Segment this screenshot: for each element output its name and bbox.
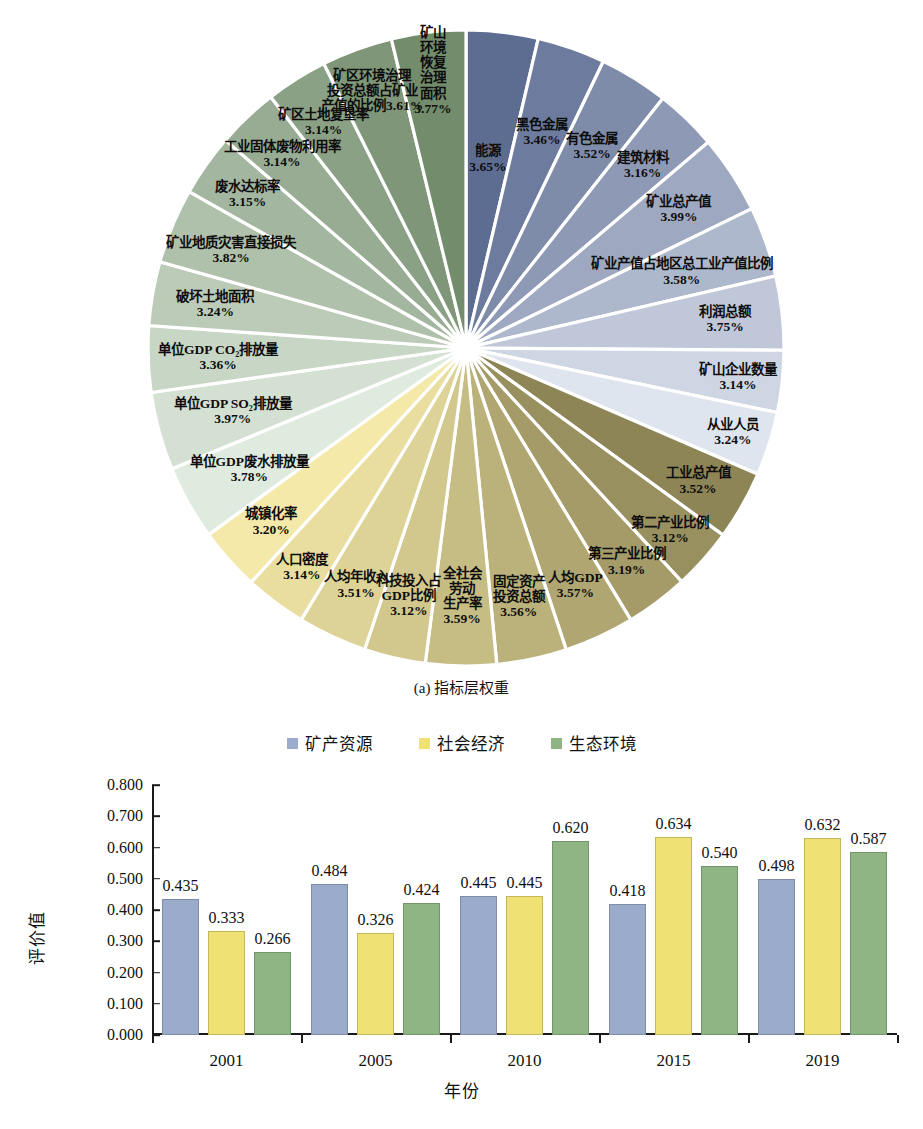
x-axis-tick-label: 2015 [657,1051,691,1071]
bar-value-label: 0.587 [851,830,887,848]
bar-value-label: 0.498 [759,857,795,875]
bar[interactable] [357,933,394,1035]
x-axis-tick-mark [450,1035,452,1043]
bar[interactable] [655,837,692,1035]
y-axis-tick-label: 0.000 [107,1026,152,1044]
bar-group: 0.4840.3260.4242005 [301,785,450,1035]
bar-value-label: 0.333 [209,909,245,927]
bar-group: 0.4450.4450.6202010 [450,785,599,1035]
bar[interactable] [804,838,841,1036]
bar-holder: 0.632 [804,785,841,1035]
bar-value-label: 0.445 [461,874,497,892]
bar-holder: 0.266 [254,785,291,1035]
bar-holder: 0.445 [506,785,543,1035]
bar[interactable] [506,896,543,1035]
pie-slice-group [148,30,784,666]
y-axis-tick-label: 0.100 [107,995,152,1013]
x-axis-tick-label: 2010 [508,1051,542,1071]
bar-plot-wrap: 评价值 0.8000.7000.6000.5000.4000.3000.2000… [0,700,923,1129]
bar-holder: 0.484 [311,785,348,1035]
x-axis-tick-mark [301,1035,303,1043]
bar-holder: 0.326 [357,785,394,1035]
x-axis-tick-mark [748,1035,750,1043]
bar[interactable] [208,931,245,1035]
bar[interactable] [552,841,589,1035]
y-axis-tick-label: 0.200 [107,964,152,982]
bar-holder: 0.587 [850,785,887,1035]
y-axis-tick-label: 0.600 [107,839,152,857]
figure-a-caption: (a) 指标层权重 [0,676,923,697]
bar-group: 0.4180.6340.5402015 [599,785,748,1035]
bar-holder: 0.435 [162,785,199,1035]
y-axis-tick-label: 0.700 [107,807,152,825]
x-axis-tick-label: 2005 [359,1051,393,1071]
x-axis-tick-mark [897,1035,899,1043]
bar-holder: 0.445 [460,785,497,1035]
bar-holder: 0.333 [208,785,245,1035]
bar[interactable] [758,879,795,1035]
bar-holder: 0.418 [609,785,646,1035]
bar-holder: 0.424 [403,785,440,1035]
bar-value-label: 0.435 [163,877,199,895]
y-axis-tick-label: 0.500 [107,870,152,888]
bar-group: 0.4980.6320.5872019 [748,785,897,1035]
bar-plot-area: 0.8000.7000.6000.5000.4000.3000.2000.100… [152,785,897,1035]
bar-value-label: 0.484 [312,862,348,880]
bar-value-label: 0.445 [507,874,543,892]
bar-holder: 0.620 [552,785,589,1035]
bar-value-label: 0.266 [255,930,291,948]
y-axis-tick-label: 0.400 [107,901,152,919]
bar[interactable] [850,852,887,1035]
bar-holder: 0.498 [758,785,795,1035]
y-axis-tick-label: 0.300 [107,932,152,950]
x-axis-tick-mark [599,1035,601,1043]
bar-holder: 0.634 [655,785,692,1035]
bar-value-label: 0.540 [702,844,738,862]
y-axis-title: 评价值 [23,911,48,965]
bar[interactable] [254,952,291,1035]
pie-figure: 能源 3.65%黑色金属 3.46%有色金属 3.52%建筑材料 3.16%矿业… [0,0,923,700]
bar-value-label: 0.634 [656,815,692,833]
bar-holder: 0.540 [701,785,738,1035]
bar-group: 0.4350.3330.2662001 [152,785,301,1035]
bar[interactable] [311,884,348,1035]
bar-figure: 矿产资源 社会经济 生态环境 评价值 0.8000.7000.6000.5000… [0,700,923,1129]
x-axis-tick-mark [152,1035,154,1043]
bar[interactable] [162,899,199,1035]
bar[interactable] [609,904,646,1035]
bar[interactable] [403,903,440,1036]
bar-value-label: 0.620 [553,819,589,837]
bar-value-label: 0.424 [404,881,440,899]
bar[interactable] [460,896,497,1035]
x-axis-title: 年份 [0,1077,923,1102]
x-axis-tick-label: 2001 [210,1051,244,1071]
bar-value-label: 0.632 [805,816,841,834]
bar-value-label: 0.418 [610,882,646,900]
bar[interactable] [701,866,738,1035]
bar-value-label: 0.326 [358,911,394,929]
y-axis-tick-label: 0.800 [107,776,152,794]
x-axis-tick-label: 2019 [806,1051,840,1071]
pie-chart-svg [0,0,923,700]
